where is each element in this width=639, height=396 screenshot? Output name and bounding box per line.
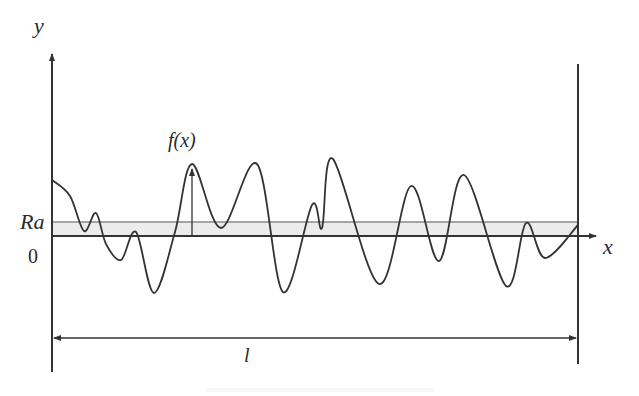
roughness-profile-diagram: y x f(x) Ra 0 l <box>0 0 639 396</box>
ra-band <box>52 222 578 236</box>
zero-label: 0 <box>28 245 38 267</box>
length-label: l <box>244 344 250 366</box>
ra-label: Ra <box>19 209 44 234</box>
caption-placeholder <box>205 388 435 392</box>
x-axis-label: x <box>602 234 613 259</box>
y-axis-label: y <box>32 13 44 38</box>
function-label: f(x) <box>168 129 196 152</box>
